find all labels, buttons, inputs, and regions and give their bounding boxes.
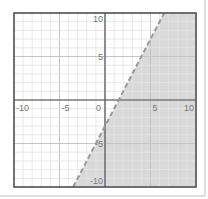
y-tick-label: 5 bbox=[98, 52, 103, 62]
x-tick-label: 10 bbox=[184, 103, 194, 113]
x-tick-label: 5 bbox=[153, 103, 158, 113]
y-tick-label: 10 bbox=[93, 14, 103, 24]
x-tick-label: -10 bbox=[16, 103, 29, 113]
y-tick-label: -10 bbox=[90, 176, 103, 186]
x-tick-label: -5 bbox=[62, 103, 70, 113]
inequality-graph: -10-50510105-5-10 bbox=[0, 0, 208, 199]
x-tick-label: 0 bbox=[96, 103, 101, 113]
y-tick-label: -5 bbox=[95, 139, 103, 149]
